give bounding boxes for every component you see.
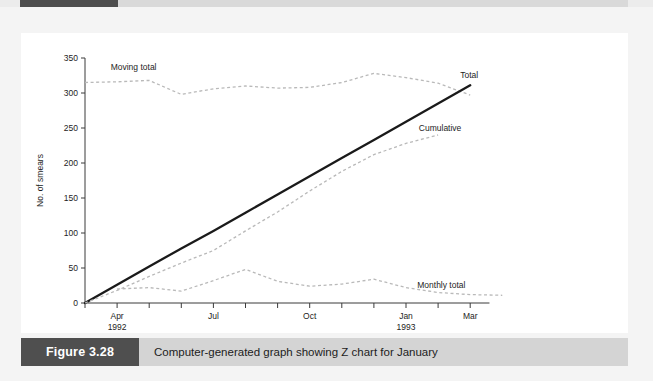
x-axis-tick-label: Jul <box>208 311 219 321</box>
x-axis-tick-label-year: 1993 <box>397 322 416 332</box>
series-label-total: Total <box>460 70 478 80</box>
y-axis-tick-label: 100 <box>64 228 78 238</box>
y-axis-tick-label: 300 <box>64 88 78 98</box>
figure-panel: 050100150200250300350No. of smearsApr199… <box>21 33 628 333</box>
x-axis-tick-label: Mar <box>463 311 478 321</box>
x-axis-tick-label-year: 1992 <box>108 322 127 332</box>
x-axis-tick-label: Jan <box>399 311 413 321</box>
series-line-cumulative <box>85 135 438 303</box>
figure-caption-bar: Figure 3.28 Computer-generated graph sho… <box>21 338 628 366</box>
top-dark-tab <box>20 0 118 7</box>
x-axis-tick-label: Apr <box>110 311 123 321</box>
y-axis-tick-label: 0 <box>73 298 78 308</box>
top-gray-tab <box>118 0 628 7</box>
series-label-monthly-total: Monthly total <box>417 280 465 290</box>
x-axis-tick-label: Oct <box>303 311 317 321</box>
y-axis-tick-label: 350 <box>64 53 78 63</box>
y-axis-tick-label: 150 <box>64 193 78 203</box>
y-axis-tick-label: 50 <box>69 263 79 273</box>
figure-caption-text: Computer-generated graph showing Z chart… <box>154 338 438 366</box>
series-line-total <box>85 85 470 303</box>
z-chart-graph: 050100150200250300350No. of smearsApr199… <box>21 33 628 333</box>
y-axis-tick-label: 200 <box>64 158 78 168</box>
series-label-cumulative: Cumulative <box>419 123 462 133</box>
figure-number-tag: Figure 3.28 <box>21 338 139 366</box>
y-axis-tick-label: 250 <box>64 123 78 133</box>
y-axis-title: No. of smears <box>35 154 45 207</box>
series-line-moving-total <box>85 73 470 95</box>
series-label-moving-total: Moving total <box>111 62 157 72</box>
